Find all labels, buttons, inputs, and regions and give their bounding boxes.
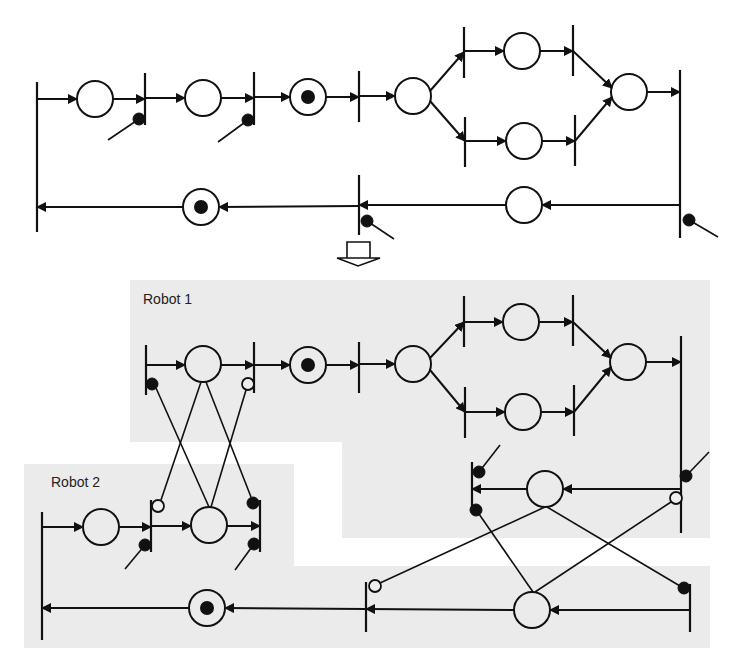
arc [573, 51, 612, 88]
arc [430, 101, 465, 141]
external-input-line [218, 120, 248, 142]
token [200, 601, 214, 615]
region-label-robot1: Robot 1 [143, 291, 192, 307]
petri-net-diagram [0, 0, 741, 665]
place [185, 80, 221, 116]
external-input-line [689, 220, 718, 237]
external-input-line [108, 119, 139, 140]
place [506, 187, 542, 223]
token [194, 200, 208, 214]
enabling-arc-circle [670, 492, 682, 504]
enabling-arc-circle [369, 580, 381, 592]
external-input-line [367, 221, 394, 239]
enabling-arc-circle [242, 378, 254, 390]
place [611, 74, 647, 110]
down-arrow-icon [337, 242, 380, 266]
inhibitor-dot [678, 582, 690, 594]
token [301, 90, 315, 104]
top-net [37, 25, 718, 239]
place [506, 123, 542, 159]
region-label-robot2: Robot 2 [51, 474, 100, 490]
place [77, 81, 113, 117]
token [301, 358, 315, 372]
arc [219, 206, 359, 207]
arc [575, 97, 612, 141]
inhibitor-dot [247, 497, 259, 509]
arc [430, 52, 464, 91]
inhibitor-dot [470, 504, 482, 516]
arc [225, 608, 366, 609]
place [395, 78, 431, 114]
arc [366, 609, 514, 610]
place [504, 33, 540, 69]
enabling-arc-circle [152, 500, 164, 512]
